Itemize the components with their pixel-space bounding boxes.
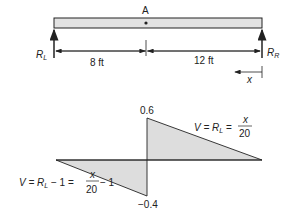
point-a-label: A xyxy=(142,5,149,16)
beam-diagram: A RL RR 8 ft 12 ft x 0.6 −0.4 V = RL = x… xyxy=(0,0,293,211)
svg-text:x: x xyxy=(242,114,249,125)
svg-text:20: 20 xyxy=(86,184,98,195)
svg-text:x: x xyxy=(89,169,96,180)
svg-text:20: 20 xyxy=(239,128,251,139)
svg-text:V = RL =: V = RL = xyxy=(194,122,232,134)
shear-max-label: 0.6 xyxy=(140,105,154,116)
right-span-label: 12 ft xyxy=(194,55,214,66)
left-span-label: 8 ft xyxy=(90,57,104,68)
svg-text:V = RL − 1 =: V = RL − 1 = xyxy=(19,177,74,189)
point-a-marker xyxy=(144,21,147,24)
x-label: x xyxy=(246,74,253,85)
beam xyxy=(54,18,262,28)
right-reaction-label: RR xyxy=(267,47,279,59)
left-reaction-label: RL xyxy=(36,49,47,61)
right-shear-equation: V = RL = x 20 xyxy=(194,114,252,139)
shear-min-label: −0.4 xyxy=(138,199,158,210)
svg-text:− 1: − 1 xyxy=(100,177,115,188)
